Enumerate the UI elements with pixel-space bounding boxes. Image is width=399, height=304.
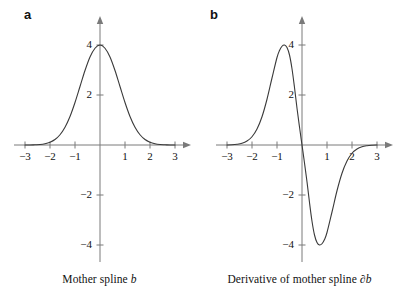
x-tick-label: −1 (69, 150, 81, 162)
caption-a: Mother spline b (0, 272, 199, 286)
panel-a: a (0, 0, 199, 304)
x-tick-label: 1 (324, 150, 330, 162)
caption-text: Mother spline (62, 273, 130, 285)
y-tick-label: −4 (282, 238, 294, 250)
x-tick-labels-a: −3 −2 −1 1 2 3 (19, 150, 178, 162)
x-tick-label: −3 (221, 150, 233, 162)
caption-symbol: b (131, 273, 137, 285)
x-tick-labels-b: −3 −2 −1 1 2 3 (221, 150, 380, 162)
x-tick-label: 3 (172, 150, 178, 162)
y-axis-b (299, 16, 305, 262)
x-tick-label: −3 (19, 150, 31, 162)
y-tick-label: −2 (282, 188, 294, 200)
figure-container: a (0, 0, 399, 304)
x-tick-label: −1 (271, 150, 283, 162)
y-tick-labels-a: 4 2 −2 −4 (80, 38, 92, 250)
x-tick-label: −2 (246, 150, 258, 162)
plot-area-a: −3 −2 −1 1 2 3 4 2 −2 −4 (0, 0, 199, 268)
y-axis-a (97, 16, 103, 262)
y-tick-label: 2 (289, 88, 295, 100)
x-tick-label: 2 (147, 150, 153, 162)
x-tick-label: 1 (122, 150, 128, 162)
plot-svg-b: −3 −2 −1 1 2 3 4 2 −2 −4 (200, 0, 399, 268)
panel-b: b (200, 0, 399, 304)
caption-text: Derivative of mother spline (227, 273, 359, 285)
y-tick-label: −2 (80, 188, 92, 200)
plot-svg-a: −3 −2 −1 1 2 3 4 2 −2 −4 (0, 0, 199, 268)
plot-area-b: −3 −2 −1 1 2 3 4 2 −2 −4 (200, 0, 399, 268)
x-tick-label: −2 (44, 150, 56, 162)
x-tick-label: 3 (374, 150, 380, 162)
y-tick-label: −4 (80, 238, 92, 250)
y-tick-label: 2 (87, 88, 93, 100)
y-tick-label: 4 (289, 38, 295, 50)
y-tick-label: 4 (87, 38, 93, 50)
caption-b: Derivative of mother spline ∂b (200, 272, 399, 286)
caption-symbol: ∂b (360, 273, 372, 285)
